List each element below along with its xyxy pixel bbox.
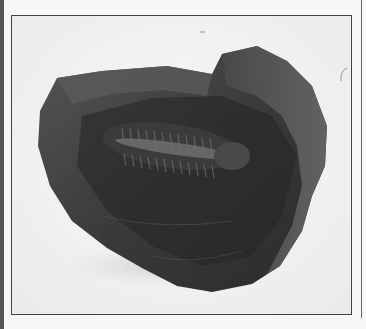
photo-frame xyxy=(11,15,352,315)
left-edge-bar xyxy=(0,0,4,329)
fossil-photo xyxy=(12,16,352,315)
right-edge-line xyxy=(361,0,362,318)
